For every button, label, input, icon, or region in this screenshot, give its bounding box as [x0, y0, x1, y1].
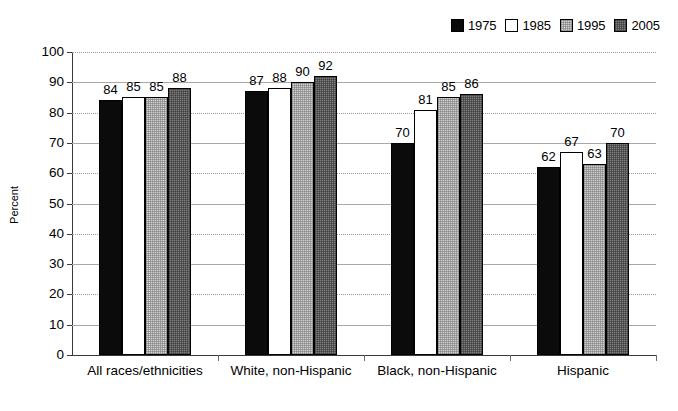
gridline — [72, 52, 656, 53]
bar-value-label: 70 — [610, 126, 624, 139]
y-tick-mark — [67, 355, 72, 356]
bar-value-label: 81 — [418, 93, 432, 106]
legend-swatch-icon — [560, 19, 573, 32]
bar-1995-1 — [291, 82, 314, 355]
y-tick-label: 90 — [49, 76, 64, 90]
bar-1975-1 — [245, 91, 268, 355]
x-tick-mark — [218, 355, 219, 361]
bar-value-label: 67 — [564, 135, 578, 148]
bar-chart: 1975198519952005 Percent 100908070605040… — [0, 0, 678, 411]
category-label-2: Black, non-Hispanic — [377, 364, 496, 378]
y-tick-mark — [67, 82, 72, 83]
y-tick-mark — [67, 325, 72, 326]
legend-label: 1985 — [522, 19, 551, 32]
y-tick-label: 100 — [41, 45, 64, 59]
y-tick-mark — [67, 294, 72, 295]
y-tick-mark — [67, 173, 72, 174]
bar-value-label: 88 — [172, 71, 186, 84]
y-tick-label: 50 — [49, 197, 64, 211]
y-tick-label: 30 — [49, 257, 64, 271]
chart-legend: 1975198519952005 — [451, 16, 660, 34]
bar-1985-0 — [122, 97, 145, 355]
y-tick-label: 80 — [49, 106, 64, 120]
legend-label: 1995 — [577, 19, 606, 32]
bar-1985-1 — [268, 88, 291, 355]
bar-1975-0 — [99, 100, 122, 355]
y-tick-label: 40 — [49, 227, 64, 241]
bar-2005-1 — [314, 76, 337, 355]
bar-value-label: 70 — [395, 126, 409, 139]
bar-1985-2 — [414, 110, 437, 355]
legend-item-2005[interactable]: 2005 — [614, 19, 660, 32]
y-tick-mark — [67, 234, 72, 235]
y-tick-label: 20 — [49, 288, 64, 302]
bar-value-label: 85 — [126, 80, 140, 93]
bar-1985-3 — [560, 152, 583, 355]
x-tick-mark — [656, 355, 657, 361]
bar-1975-3 — [537, 167, 560, 355]
y-tick-label: 0 — [56, 348, 64, 362]
y-tick-label: 70 — [49, 136, 64, 150]
bar-value-label: 85 — [441, 80, 455, 93]
legend-swatch-icon — [505, 19, 518, 32]
legend-item-1985[interactable]: 1985 — [505, 19, 551, 32]
bar-1995-3 — [583, 164, 606, 355]
y-tick-mark — [67, 143, 72, 144]
bar-1995-2 — [437, 97, 460, 355]
bar-value-label: 90 — [295, 65, 309, 78]
y-tick-label: 60 — [49, 166, 64, 180]
bar-2005-0 — [168, 88, 191, 355]
category-label-0: All races/ethnicities — [87, 364, 203, 378]
bar-value-label: 63 — [587, 147, 601, 160]
bar-value-label: 88 — [272, 71, 286, 84]
legend-swatch-icon — [451, 19, 464, 32]
y-tick-label: 10 — [49, 318, 64, 332]
bar-value-label: 87 — [249, 74, 263, 87]
legend-label: 1975 — [468, 19, 497, 32]
bar-2005-2 — [460, 94, 483, 355]
y-tick-mark — [67, 264, 72, 265]
y-tick-mark — [67, 204, 72, 205]
legend-item-1975[interactable]: 1975 — [451, 19, 497, 32]
y-axis-title: Percent — [9, 186, 20, 224]
x-tick-mark — [510, 355, 511, 361]
x-tick-mark — [364, 355, 365, 361]
y-tick-mark — [67, 113, 72, 114]
legend-label: 2005 — [631, 19, 660, 32]
bar-value-label: 92 — [318, 59, 332, 72]
bar-2005-3 — [606, 143, 629, 355]
bar-value-label: 86 — [464, 77, 478, 90]
bar-value-label: 62 — [541, 150, 555, 163]
plot-area: 1009080706050403020100 84858588878890927… — [72, 52, 656, 355]
legend-item-1995[interactable]: 1995 — [560, 19, 606, 32]
y-tick-mark — [67, 52, 72, 53]
bar-1975-2 — [391, 143, 414, 355]
bar-1995-0 — [145, 97, 168, 355]
legend-swatch-icon — [614, 19, 627, 32]
bar-value-label: 85 — [149, 80, 163, 93]
category-label-3: Hispanic — [557, 364, 609, 378]
bar-value-label: 84 — [103, 83, 117, 96]
category-label-1: White, non-Hispanic — [231, 364, 352, 378]
